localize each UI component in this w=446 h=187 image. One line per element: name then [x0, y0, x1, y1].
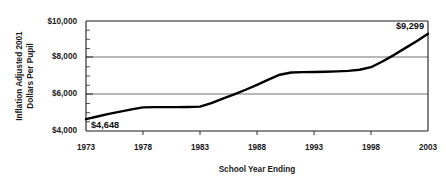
chart-svg: $10,000 $8,000 $6,000 $4,000 Inflation A… [0, 0, 446, 187]
x-axis-ticks [143, 131, 371, 135]
x-axis-title: School Year Ending [219, 165, 296, 174]
annotation-end-value: $9,299 [396, 21, 424, 31]
x-tick-label-1998: 1998 [362, 143, 381, 152]
y-axis-title-line-1: Inflation Adjusted 2001 [15, 31, 24, 121]
y-tick-label-10000: $10,000 [47, 17, 77, 26]
annotation-start-value: $4,648 [91, 120, 119, 130]
y-axis-major-ticks [86, 57, 93, 94]
x-tick-label-1988: 1988 [248, 143, 267, 152]
gridlines [86, 57, 428, 94]
y-axis-title-line-2: Dollars Per Pupil [26, 43, 35, 109]
y-tick-label-6000: $6,000 [52, 89, 77, 98]
plot-frame [86, 21, 428, 131]
y-tick-label-8000: $8,000 [52, 52, 77, 61]
chart-figure: $10,000 $8,000 $6,000 $4,000 Inflation A… [0, 0, 446, 187]
x-tick-label-1983: 1983 [191, 143, 210, 152]
y-tick-label-4000: $4,000 [52, 126, 77, 135]
x-tick-label-1978: 1978 [134, 143, 153, 152]
x-tick-label-1973: 1973 [77, 143, 96, 152]
y-axis-minor-ticks [86, 30, 90, 122]
spending-trend-line [86, 34, 428, 119]
x-tick-label-1993: 1993 [305, 143, 324, 152]
x-tick-label-2003: 2003 [419, 143, 438, 152]
y-axis-title: Inflation Adjusted 2001 Dollars Per Pupi… [15, 31, 35, 121]
